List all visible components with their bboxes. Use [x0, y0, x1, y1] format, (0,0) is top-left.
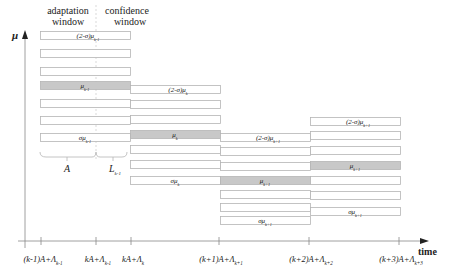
- brace-bracket: [40, 152, 127, 157]
- bar: [311, 132, 401, 140]
- x-tick-label: kA+Λk-1: [85, 254, 111, 266]
- brace-label-a: A: [63, 163, 71, 174]
- column-k-1: (2-σ)μk-1μk-1σμk-1: [41, 32, 131, 144]
- diagram-canvas: adaptation window confidence window μ ti…: [0, 0, 449, 277]
- bar: [41, 117, 131, 125]
- x-tick-label: (k+3)A+Λk+3: [379, 254, 423, 266]
- x-tick-label: (k+1)A+Λk+1: [199, 254, 243, 266]
- bar: [221, 163, 311, 171]
- bar: [311, 147, 401, 155]
- x-axis-arrow-icon: [420, 238, 429, 244]
- y-axis-arrow-icon: [22, 30, 28, 39]
- confidence-window-label-line1: confidence: [105, 5, 149, 16]
- x-tick-label: (k-1)A+Λk-1: [23, 254, 62, 266]
- bar-columns: (2-σ)μk-1μk-1σμk-1(2-σ)μkμkσμk(2-σ)μk+1μ…: [41, 32, 401, 227]
- brace-label-l: Lk-1: [108, 163, 121, 176]
- bar: [41, 100, 131, 108]
- window-adaptation-diagram: adaptation window confidence window μ ti…: [0, 0, 449, 277]
- bar: [131, 161, 221, 169]
- column-k+1: (2-σ)μk+1μk+1σμk+1: [221, 134, 311, 227]
- adaptation-window-label-line2: window: [52, 16, 85, 27]
- bar: [221, 191, 311, 199]
- bar: [131, 146, 221, 154]
- bar: [221, 148, 311, 156]
- bar: [131, 116, 221, 124]
- bar: [131, 101, 221, 109]
- x-axis-label: time: [418, 246, 437, 257]
- x-tick-label: (k+2)A+Λk+2: [289, 254, 333, 266]
- bar: [311, 192, 401, 200]
- bar: [311, 177, 401, 185]
- bar: [41, 50, 131, 58]
- confidence-window-label-line2: window: [114, 16, 147, 27]
- column-k+2: (2-σ)μk+1μk+1σμk+1: [311, 118, 401, 218]
- bar-label-top: (2-σ)μk: [168, 86, 187, 96]
- adaptation-window-label-line1: adaptation: [47, 5, 89, 16]
- bar: [41, 68, 131, 76]
- bar: [221, 204, 311, 212]
- y-axis-label: μ: [11, 29, 18, 41]
- x-tick-label: kA+Λk: [122, 254, 145, 266]
- column-k: (2-σ)μkμkσμk: [131, 86, 221, 187]
